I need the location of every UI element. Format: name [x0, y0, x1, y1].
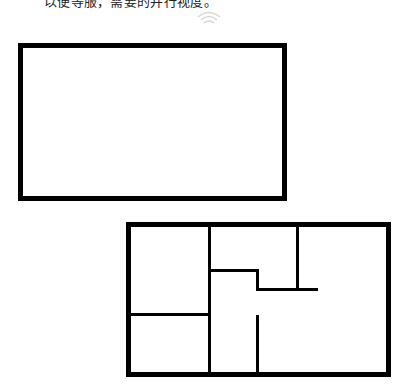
wall — [209, 271, 318, 290]
floor-plan — [0, 0, 411, 388]
